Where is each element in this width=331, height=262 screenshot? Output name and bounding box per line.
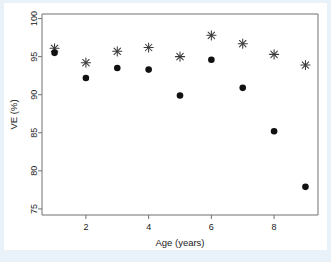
- x-tick-label-8: 8: [272, 222, 277, 232]
- axes-frame: [42, 14, 318, 215]
- point-asterisk: [301, 60, 310, 69]
- plot-panel: 7580859095100 2468 Age (years) VE (%): [4, 3, 327, 250]
- y-axis-title: VE (%): [8, 99, 19, 129]
- point-asterisk: [269, 50, 278, 59]
- point-asterisk: [175, 52, 184, 61]
- figure-container: 7580859095100 2468 Age (years) VE (%): [0, 0, 331, 262]
- y-tick-label-95: 95: [29, 52, 39, 62]
- y-axis-tick-labels: 7580859095100: [29, 11, 39, 214]
- x-tick-label-2: 2: [83, 222, 88, 232]
- point-circle: [302, 184, 309, 191]
- data-series: [50, 31, 310, 190]
- x-axis-ticks: [86, 215, 274, 219]
- point-asterisk: [238, 39, 247, 48]
- x-axis-title: Age (years): [155, 237, 204, 248]
- x-tick-label-6: 6: [209, 222, 214, 232]
- plot-box: [42, 14, 318, 215]
- y-tick-label-80: 80: [29, 166, 39, 176]
- point-circle: [239, 85, 246, 92]
- point-circle: [208, 56, 215, 63]
- point-asterisk: [113, 47, 122, 56]
- scatter-plot: 7580859095100 2468 Age (years) VE (%): [4, 3, 327, 250]
- point-circle: [83, 75, 90, 82]
- point-asterisk: [81, 58, 90, 67]
- series-asterisk: [50, 31, 310, 70]
- point-circle: [51, 50, 58, 57]
- point-asterisk: [144, 43, 153, 52]
- point-circle: [145, 66, 152, 73]
- y-tick-label-85: 85: [29, 128, 39, 138]
- point-circle: [271, 128, 278, 135]
- point-asterisk: [207, 31, 216, 40]
- point-circle: [114, 65, 121, 72]
- point-circle: [177, 92, 184, 99]
- y-tick-label-90: 90: [29, 90, 39, 100]
- y-tick-label-100: 100: [29, 11, 39, 26]
- y-tick-label-75: 75: [29, 204, 39, 214]
- y-axis-ticks: [38, 19, 42, 209]
- x-tick-label-4: 4: [146, 222, 151, 232]
- x-axis-tick-labels: 2468: [83, 222, 276, 232]
- series-circle: [51, 50, 309, 191]
